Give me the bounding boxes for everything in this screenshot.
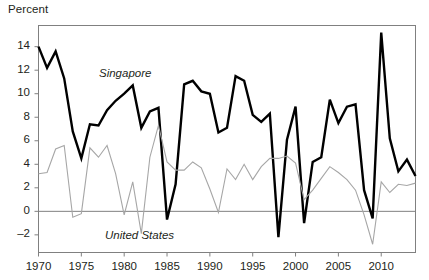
x-tick-label: 1990 xyxy=(190,260,230,272)
y-tick-label: 14 xyxy=(8,39,30,51)
y-tick-label: –2 xyxy=(8,227,30,239)
x-tick-label: 1975 xyxy=(61,260,101,272)
y-tick-label: 6 xyxy=(8,133,30,145)
plot-svg xyxy=(0,0,429,280)
series-line-singapore xyxy=(39,33,416,238)
x-tick-label: 2000 xyxy=(276,260,316,272)
series-label-singapore: Singapore xyxy=(99,67,151,79)
y-tick-label: 4 xyxy=(8,157,30,169)
x-axis-ticks xyxy=(39,253,382,257)
x-tick-label: 1995 xyxy=(233,260,273,272)
y-tick-label: 12 xyxy=(8,63,30,75)
x-tick-label: 2005 xyxy=(318,260,358,272)
x-tick-label: 1970 xyxy=(19,260,59,272)
x-tick-label: 1980 xyxy=(104,260,144,272)
y-tick-label: 10 xyxy=(8,86,30,98)
x-tick-label: 1985 xyxy=(147,260,187,272)
series-label-united-states: United States xyxy=(105,229,174,241)
gdp-growth-chart: Percent –202468101214 197019751980198519… xyxy=(0,0,429,280)
y-tick-label: 2 xyxy=(8,180,30,192)
x-tick-label: 2010 xyxy=(361,260,401,272)
y-tick-label: 8 xyxy=(8,110,30,122)
y-axis-ticks xyxy=(35,47,39,235)
series-lines xyxy=(39,33,416,245)
y-tick-label: 0 xyxy=(8,204,30,216)
